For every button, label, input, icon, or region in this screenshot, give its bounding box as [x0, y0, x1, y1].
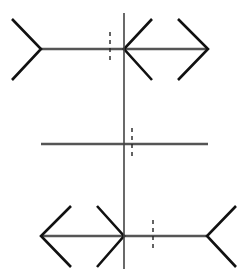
arrow-fin	[207, 206, 236, 267]
row-top	[12, 19, 208, 80]
row-bottom	[41, 206, 236, 267]
arrow-fin	[12, 19, 41, 80]
muller-lyer-diagram	[0, 0, 248, 276]
